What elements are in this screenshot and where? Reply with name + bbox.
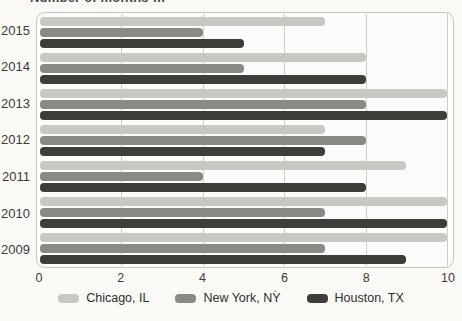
legend-label: New York, NY	[203, 291, 280, 305]
bar-chicago-il	[40, 197, 447, 206]
x-tick-label: 8	[363, 271, 370, 285]
x-tick-label: 4	[199, 271, 206, 285]
y-axis-labels: 2015201420132012201120102009	[0, 12, 30, 268]
x-tick-label: 0	[36, 271, 43, 285]
y-axis-label: 2010	[0, 207, 30, 220]
plot-field	[40, 14, 447, 266]
bar-houston-tx	[40, 39, 244, 48]
legend-label: Chicago, IL	[86, 291, 149, 305]
y-axis-label: 2009	[0, 243, 30, 256]
legend-swatch	[307, 294, 328, 303]
plot-area	[36, 12, 454, 268]
bar-group-2012	[40, 124, 447, 157]
bar-new-york-ny	[40, 244, 325, 253]
bar-chicago-il	[40, 233, 447, 242]
legend-swatch	[58, 294, 79, 303]
x-axis-labels: 0246810	[0, 271, 462, 287]
bar-new-york-ny	[40, 172, 203, 181]
bar-group-2014	[40, 52, 447, 85]
y-axis-label: 2014	[0, 60, 30, 73]
bar-group-2011	[40, 160, 447, 193]
bar-groups	[40, 14, 447, 266]
y-axis-label: 2015	[0, 24, 30, 37]
legend-item-houston-tx: Houston, TX	[307, 291, 404, 305]
bar-houston-tx	[40, 183, 366, 192]
x-tick-label: 10	[441, 271, 455, 285]
bar-chicago-il	[40, 53, 366, 62]
bar-new-york-ny	[40, 28, 203, 37]
x-tick-label: 6	[281, 271, 288, 285]
bar-new-york-ny	[40, 64, 244, 73]
bar-group-2013	[40, 88, 447, 121]
bar-new-york-ny	[40, 100, 366, 109]
chart-title: Number of months …	[30, 0, 166, 5]
legend-item-chicago-il: Chicago, IL	[58, 291, 149, 305]
bar-group-2015	[40, 16, 447, 49]
bar-group-2010	[40, 196, 447, 229]
bar-houston-tx	[40, 219, 447, 228]
bar-chicago-il	[40, 17, 325, 26]
bar-chart: Number of months … 201520142013201220112…	[0, 0, 462, 321]
x-tick-label: 2	[117, 271, 124, 285]
bar-chicago-il	[40, 125, 325, 134]
gridline	[447, 14, 448, 266]
bar-chicago-il	[40, 161, 406, 170]
bar-houston-tx	[40, 111, 447, 120]
bar-houston-tx	[40, 255, 406, 264]
y-axis-label: 2011	[0, 170, 30, 183]
bar-group-2009	[40, 232, 447, 265]
y-axis-label: 2012	[0, 133, 30, 146]
y-axis-label: 2013	[0, 97, 30, 110]
bar-houston-tx	[40, 147, 325, 156]
legend-swatch	[175, 294, 196, 303]
legend: Chicago, ILNew York, NYHouston, TX	[0, 291, 462, 305]
bar-chicago-il	[40, 89, 447, 98]
legend-label: Houston, TX	[335, 291, 404, 305]
bar-new-york-ny	[40, 136, 366, 145]
bar-new-york-ny	[40, 208, 325, 217]
bar-houston-tx	[40, 75, 366, 84]
legend-item-new-york-ny: New York, NY	[175, 291, 280, 305]
